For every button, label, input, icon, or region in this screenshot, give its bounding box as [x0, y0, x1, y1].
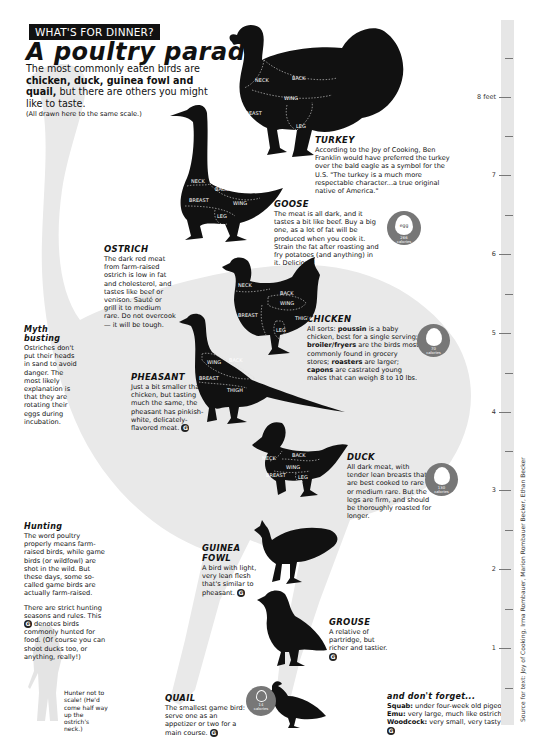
ruler-minor-tick — [505, 294, 513, 295]
grouse-text: A relative of partridge, but richer and … — [329, 628, 387, 652]
ruler-label: 5 — [456, 329, 496, 337]
dont-forget-heading: and don't forget... — [387, 692, 507, 701]
quail-text: The smallest game bird: serve one as an … — [165, 704, 245, 737]
ruler-label: 4 — [456, 408, 496, 416]
ruler-minor-tick — [505, 215, 513, 216]
dont-forget-item: Squab: under four-week old pigeon — [387, 702, 507, 710]
svg-text:WING: WING — [280, 300, 294, 306]
svg-text:LEG: LEG — [298, 474, 308, 480]
chicken-calorie-badge: 70calories — [417, 324, 450, 357]
ruler-major-tick — [499, 175, 511, 176]
ruler-minor-tick — [505, 58, 513, 59]
grouse-heading: GROUSE — [329, 617, 391, 627]
grouse-caption: GROUSE A relative of partridge, but rich… — [329, 617, 391, 661]
hunting-text-1: The word poultry properly means farm-rai… — [24, 532, 108, 598]
dont-forget-item: Woodcock: very small, very tasty G — [387, 718, 507, 734]
ruler-minor-tick — [505, 688, 513, 689]
game-bird-icon: G — [329, 653, 337, 661]
guinea-fowl-text: A bird with light, very lean flesh that'… — [202, 564, 256, 597]
ruler-major-tick — [499, 569, 511, 570]
duck-calorie-badge: 130calories — [425, 463, 458, 496]
svg-text:NECK: NECK — [238, 282, 252, 288]
svg-text:NECK: NECK — [255, 77, 269, 83]
ruler-label: 7 — [456, 171, 496, 179]
egg-icon — [426, 328, 442, 346]
ruler-minor-tick — [505, 530, 513, 531]
game-bird-icon: G — [210, 729, 218, 737]
duck-heading: DUCK — [347, 452, 432, 462]
svg-text:BREAST: BREAST — [189, 197, 210, 203]
ruler-minor-tick — [505, 609, 513, 610]
game-bird-icon: G — [237, 589, 245, 597]
svg-text:BACK: BACK — [215, 186, 229, 192]
goose-calorie-badge: egg 266calories — [387, 211, 421, 245]
guinea-fowl-heading: GUINEA FOWL — [202, 543, 268, 563]
ruler-major-tick — [499, 412, 511, 413]
svg-text:BACK: BACK — [280, 290, 294, 296]
game-bird-icon: G — [181, 424, 189, 432]
duck-silhouette: NECKBACK WINGBREASTLEG — [250, 415, 350, 500]
ruler-major-tick — [499, 97, 511, 98]
ruler-label: 1 — [456, 644, 496, 652]
ruler-major-tick — [499, 333, 511, 334]
hunter-note: Hunter not to scale! (He'd come half way… — [64, 689, 108, 733]
quail-caption: QUAIL The smallest game bird: serve one … — [165, 693, 247, 737]
ruler-label: 2 — [456, 565, 496, 573]
dont-forget-box: and don't forget... Squab: under four-we… — [387, 692, 507, 735]
ruler-minor-tick — [505, 373, 513, 374]
ruler-major-tick — [499, 648, 511, 649]
myth-heading: Myth busting — [24, 325, 80, 343]
svg-text:NECK: NECK — [191, 178, 205, 184]
hunting-sidebar: Hunting The word poultry properly means … — [24, 522, 108, 661]
ruler-major-tick — [499, 490, 511, 491]
svg-text:LEG: LEG — [217, 213, 227, 219]
pheasant-caption: PHEASANT Just a bit smaller than a chick… — [131, 372, 213, 432]
svg-text:WING: WING — [233, 200, 247, 206]
myth-busting-sidebar: Myth busting Ostriches don't put their h… — [24, 325, 80, 426]
svg-text:BACK: BACK — [292, 452, 306, 458]
ruler-label: 8 feet — [456, 93, 496, 101]
ruler-label: 6 — [456, 250, 496, 258]
ruler-major-tick — [499, 254, 511, 255]
svg-text:WING: WING — [207, 359, 221, 365]
quail-heading: QUAIL — [165, 693, 247, 703]
duck-text: All dark meat, with tender lean breasts … — [347, 463, 432, 520]
turkey-caption: TURKEY According to the Joy of Cooking, … — [315, 135, 460, 195]
egg-icon — [434, 467, 450, 485]
myth-text: Ostriches don't put their heads in sand … — [24, 344, 80, 426]
svg-text:BACK: BACK — [292, 75, 306, 81]
dont-forget-item: Emu: very large, much like ostrich — [387, 710, 507, 718]
ruler-minor-tick — [505, 136, 513, 137]
grouse-silhouette — [255, 588, 330, 668]
pheasant-text: Just a bit smaller than a chicken, but t… — [131, 383, 210, 432]
ostrich-heading: OSTRICH — [104, 244, 176, 254]
ruler-label: 3 — [456, 486, 496, 494]
svg-text:BREAST: BREAST — [266, 472, 287, 478]
egg-icon — [256, 690, 267, 702]
duck-caption: DUCK All dark meat, with tender lean bre… — [347, 452, 432, 520]
svg-text:WING: WING — [286, 464, 300, 470]
pheasant-heading: PHEASANT — [131, 372, 213, 382]
ostrich-text: The dark red meat from farm-raised ostri… — [104, 255, 176, 329]
game-bird-icon: G — [387, 727, 395, 735]
ostrich-caption: OSTRICH The dark red meat from farm-rais… — [104, 244, 176, 329]
svg-text:LEG: LEG — [296, 123, 306, 129]
svg-text:THIGH: THIGH — [226, 387, 243, 393]
turkey-heading: TURKEY — [315, 135, 460, 145]
ruler-minor-tick — [505, 451, 513, 452]
goose-heading: GOOSE — [274, 199, 379, 209]
egg-icon: egg — [395, 215, 413, 235]
turkey-text: According to the Joy of Cooking, Ben Fra… — [315, 146, 460, 195]
source-credit: Source for text: Joy of Cooking, Irma Ro… — [519, 457, 526, 722]
hunting-heading: Hunting — [24, 522, 108, 531]
svg-text:BACK: BACK — [229, 357, 243, 363]
quail-calorie-badge: 14calories — [246, 686, 276, 716]
svg-text:NECK: NECK — [262, 455, 276, 461]
game-bird-icon: G — [24, 620, 32, 628]
